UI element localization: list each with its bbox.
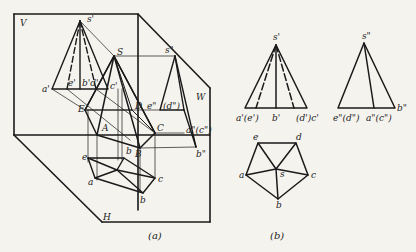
front-projection-a <box>52 21 108 89</box>
top-projection-a <box>88 158 155 193</box>
label-E: E <box>77 104 85 114</box>
label-a-prime: a' <box>42 84 50 94</box>
label-b-dprime: b" <box>196 149 206 159</box>
side-view-b <box>338 43 395 108</box>
part-b-labels: s' a'(e') b' (d')c' s" e"(d") a"(c") b" … <box>236 31 407 241</box>
label-b-a: a <box>239 170 244 180</box>
label-b-s-prime: s' <box>273 32 280 42</box>
label-C: C <box>157 123 164 133</box>
label-c-top: c <box>158 174 163 184</box>
label-d-dprime: (d") <box>163 101 180 111</box>
plane-h-label: H <box>102 212 111 222</box>
label-b-dc-prime: (d')c' <box>296 113 319 123</box>
diagram-canvas: V H W s' a' e' b'd' c' S E A D C B s" e"… <box>0 0 416 252</box>
label-b-b-prime: b' <box>272 113 280 123</box>
label-ac-dprime: a"(c") <box>186 125 212 135</box>
label-b-b-dprime: b" <box>397 103 407 113</box>
label-b-s: s <box>280 169 285 179</box>
label-b-top: b <box>140 195 146 205</box>
label-e-prime: e' <box>68 78 76 88</box>
pyramid-projection-figure: V H W s' a' e' b'd' c' S E A D C B s" e"… <box>0 0 416 252</box>
label-b-c: c <box>311 170 316 180</box>
caption-a: (a) <box>148 230 162 241</box>
label-b-e: e <box>253 132 258 142</box>
plane-w-label: W <box>196 92 206 102</box>
label-b-ed-dprime: e"(d") <box>333 113 360 123</box>
label-s-prime: s' <box>87 14 94 24</box>
label-D: D <box>134 101 142 111</box>
plane-v-label: V <box>20 18 28 28</box>
label-c-prime: c' <box>110 81 118 91</box>
label-bd-prime: b'd' <box>82 78 98 88</box>
projection-planes <box>14 14 210 222</box>
label-b-d: d <box>296 132 302 142</box>
label-a-top: a <box>88 177 93 187</box>
label-s-dprime: s" <box>165 45 174 55</box>
front-view-b <box>245 45 307 108</box>
label-b-b: b <box>276 200 282 210</box>
part-a-labels: s' a' e' b'd' c' S E A D C B s" e" (d") … <box>42 14 212 241</box>
label-b-top-upper: b <box>126 146 132 156</box>
label-A: A <box>101 123 109 133</box>
label-e-top: e <box>82 152 87 162</box>
label-B: B <box>134 149 142 159</box>
caption-b: (b) <box>270 230 284 241</box>
top-view-b <box>246 143 308 199</box>
plane-labels: V H W <box>20 18 206 222</box>
label-b-ac-dprime: a"(c") <box>366 113 392 123</box>
label-b-ae-prime: a'(e') <box>236 113 259 123</box>
label-e-dprime: e" <box>147 101 156 111</box>
label-S: S <box>117 47 123 57</box>
label-b-s-dprime: s" <box>362 31 371 41</box>
